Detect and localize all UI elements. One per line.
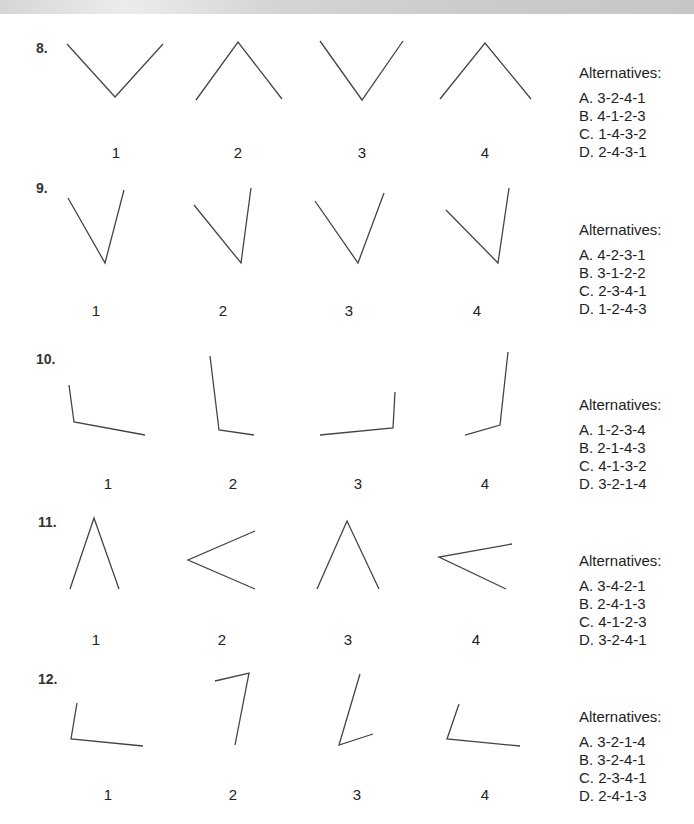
figure-label-3: 3 — [347, 144, 377, 161]
alternative-b[interactable]: B. 2-1-4-3 — [579, 439, 662, 457]
alternative-d[interactable]: D. 1-2-4-3 — [579, 300, 662, 318]
alternatives-block: Alternatives: A. 4-2-3-1 B. 3-1-2-2 C. 2… — [579, 221, 662, 318]
alternative-a[interactable]: A. 1-2-3-4 — [579, 421, 662, 439]
alternative-a[interactable]: A. 3-2-4-1 — [579, 89, 662, 107]
alternative-a[interactable]: A. 4-2-3-1 — [579, 246, 662, 264]
alternative-c[interactable]: C. 2-3-4-1 — [579, 282, 662, 300]
alternative-d[interactable]: D. 2-4-1-3 — [579, 787, 662, 805]
alternatives-title: Alternatives: — [579, 396, 662, 414]
alternatives-block: Alternatives: A. 3-2-1-4 B. 3-2-4-1 C. 2… — [579, 708, 662, 805]
alternative-b[interactable]: B. 3-1-2-2 — [579, 264, 662, 282]
alternative-d[interactable]: D. 3-2-1-4 — [579, 475, 662, 493]
angle-figures — [0, 0, 560, 824]
alternative-c[interactable]: C. 2-3-4-1 — [579, 769, 662, 787]
alternatives-title: Alternatives: — [579, 552, 662, 570]
alternatives-title: Alternatives: — [579, 708, 662, 726]
alternatives-title: Alternatives: — [579, 221, 662, 239]
alternative-a[interactable]: A. 3-4-2-1 — [579, 577, 662, 595]
alternative-c[interactable]: C. 1-4-3-2 — [579, 125, 662, 143]
alternatives-block: Alternatives: A. 1-2-3-4 B. 2-1-4-3 C. 4… — [579, 396, 662, 493]
figure-label-4: 4 — [470, 144, 500, 161]
alternative-c[interactable]: C. 4-1-2-3 — [579, 613, 662, 631]
question-8: 8. 1 2 3 4 Alternatives: A. 3-2-4-1 B. 4… — [0, 0, 694, 170]
alternative-d[interactable]: D. 3-2-4-1 — [579, 631, 662, 649]
alternative-b[interactable]: B. 4-1-2-3 — [579, 107, 662, 125]
alternative-c[interactable]: C. 4-1-3-2 — [579, 457, 662, 475]
angle-figure-1 — [67, 44, 163, 97]
alternatives-block: Alternatives: A. 3-4-2-1 B. 2-4-1-3 C. 4… — [579, 552, 662, 649]
angle-figure-2 — [196, 42, 282, 100]
alternative-d[interactable]: D. 2-4-3-1 — [579, 143, 662, 161]
alternatives-block: Alternatives: A. 3-2-4-1 B. 4-1-2-3 C. 1… — [579, 64, 662, 161]
alternative-a[interactable]: A. 3-2-1-4 — [579, 733, 662, 751]
figure-label-2: 2 — [223, 144, 253, 161]
angle-figure-4 — [440, 43, 531, 99]
alternative-b[interactable]: B. 2-4-1-3 — [579, 595, 662, 613]
alternatives-title: Alternatives: — [579, 64, 662, 82]
angle-figure-3 — [320, 41, 403, 100]
figure-label-1: 1 — [101, 144, 131, 161]
alternative-b[interactable]: B. 3-2-4-1 — [579, 751, 662, 769]
